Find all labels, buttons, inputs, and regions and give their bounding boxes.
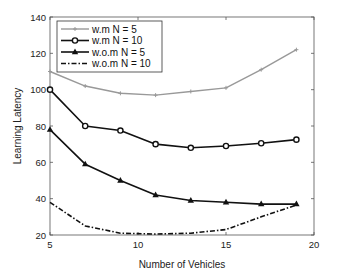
legend-label: w.m N = 5	[91, 24, 137, 35]
y-tick-label: 120	[30, 48, 46, 59]
plus-marker-icon	[189, 89, 193, 93]
circle-marker-icon	[294, 137, 299, 142]
plus-marker-icon	[83, 84, 87, 88]
plus-marker-icon	[48, 70, 52, 74]
y-axis-label: Learning Latency	[12, 88, 23, 165]
y-tick-label: 140	[30, 12, 46, 23]
series-1	[47, 87, 299, 150]
legend-label: w.o.m N = 10	[91, 58, 151, 69]
x-tick-label: 15	[221, 239, 232, 250]
y-tick-label: 60	[35, 157, 46, 168]
triangle-marker-icon	[47, 126, 53, 132]
y-tick-label: 80	[35, 121, 46, 132]
circle-marker-icon	[47, 87, 52, 92]
circle-marker-icon	[188, 145, 193, 150]
x-tick-label: 10	[133, 239, 144, 250]
circle-marker-icon	[118, 128, 123, 133]
plus-marker-icon	[154, 93, 158, 97]
circle-marker-icon	[83, 123, 88, 128]
circle-marker-icon	[72, 38, 77, 43]
series-line	[50, 202, 296, 234]
series-3	[50, 202, 296, 234]
circle-marker-icon	[223, 143, 228, 148]
legend-label: w.o.m N = 5	[91, 47, 146, 58]
legend-label: w.m N = 10	[91, 35, 143, 46]
legend: w.m N = 5w.m N = 10w.o.m N = 5w.o.m N = …	[57, 21, 162, 72]
series-2	[47, 126, 300, 206]
series-layer	[47, 48, 300, 234]
y-tick-label: 20	[35, 230, 46, 241]
y-tick-label: 40	[35, 193, 46, 204]
x-tick-label: 20	[309, 239, 320, 250]
line-chart: 510152020406080100120140 w.m N = 5w.m N …	[0, 0, 337, 276]
circle-marker-icon	[259, 141, 264, 146]
x-tick-label: 5	[47, 239, 52, 250]
series-line	[50, 90, 296, 148]
y-tick-label: 100	[30, 84, 46, 95]
plus-marker-icon	[118, 91, 122, 95]
circle-marker-icon	[153, 142, 158, 147]
x-axis-label: Number of Vehicles	[139, 259, 226, 270]
